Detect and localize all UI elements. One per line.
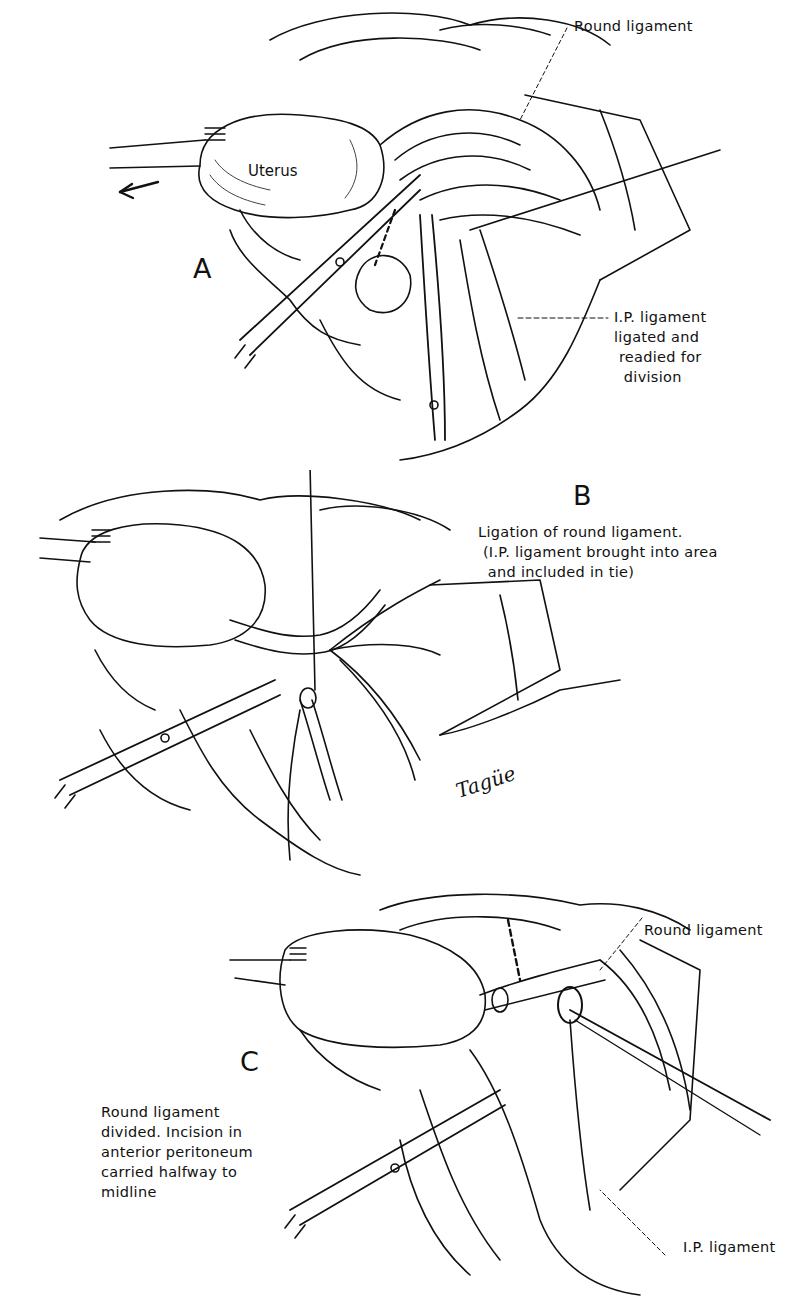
- uterus-label: Uterus: [248, 162, 298, 180]
- panel-letter-a: A: [193, 253, 211, 284]
- panel-c: Round ligament C Round ligament divided.…: [0, 890, 810, 1303]
- panel-a-illustration: [0, 0, 810, 470]
- ligation-caption-b: Ligation of round ligament. (I.P. ligame…: [478, 522, 718, 582]
- ip-ligament-label-c: I.P. ligament: [683, 1237, 776, 1257]
- panel-letter-c: C: [240, 1046, 259, 1077]
- division-caption-c: Round ligament divided. Incision in ante…: [101, 1102, 253, 1202]
- ip-ligament-label-a: I.P. ligament ligated and readied for di…: [614, 307, 707, 387]
- panel-b: B Ligation of round ligament. (I.P. liga…: [0, 470, 810, 890]
- panel-letter-b: B: [573, 480, 592, 511]
- round-ligament-label-c: Round ligament: [644, 920, 763, 940]
- panel-a: Uterus Round ligament I.P. ligament liga…: [0, 0, 810, 470]
- round-ligament-label-a: Round ligament: [574, 16, 693, 36]
